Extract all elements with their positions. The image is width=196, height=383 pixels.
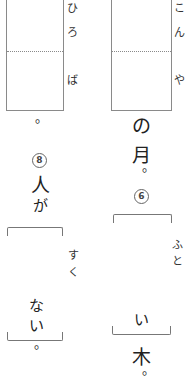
answer-box-hiroba[interactable] xyxy=(6,0,64,111)
furigana: ふ xyxy=(170,240,184,251)
punctuation: 。 xyxy=(141,363,155,376)
box-divider xyxy=(112,51,171,52)
furigana: す xyxy=(66,250,80,261)
punctuation: 。 xyxy=(141,160,155,173)
furigana: ん xyxy=(172,27,186,38)
question-number-8: 8 xyxy=(32,153,47,168)
furigana: ば xyxy=(65,75,79,86)
answer-bracket-bottom[interactable] xyxy=(112,326,171,335)
punctuation: 。 xyxy=(34,111,48,124)
box-divider xyxy=(7,51,63,52)
furigana: と xyxy=(170,256,184,267)
punctuation: 。 xyxy=(33,337,47,350)
furigana: く xyxy=(66,267,80,278)
sentence-char: の xyxy=(130,117,152,136)
sentence-char: な xyxy=(26,299,46,314)
answer-bracket-top[interactable] xyxy=(7,227,63,236)
furigana: ひ xyxy=(65,3,79,14)
answer-box-konya[interactable] xyxy=(111,0,172,111)
furigana: ろ xyxy=(65,27,79,38)
furigana: こ xyxy=(172,3,186,14)
answer-bracket-top[interactable] xyxy=(113,214,172,223)
sentence-char: が xyxy=(30,199,50,214)
sentence-char: 人 xyxy=(29,176,51,195)
furigana: や xyxy=(172,75,186,86)
question-number-6: 6 xyxy=(134,189,149,204)
